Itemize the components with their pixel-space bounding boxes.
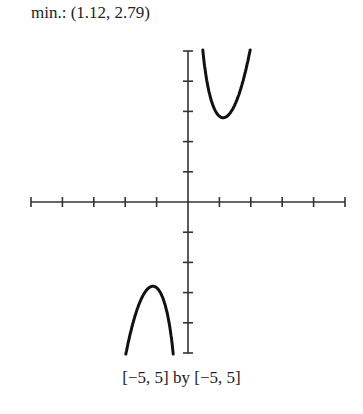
curve-right-branch [203,50,250,118]
axes [31,51,345,353]
window-range-caption: [−5, 5] by [−5, 5] [0,368,363,388]
curve-left-branch [126,286,173,354]
graph-plot [0,0,363,414]
